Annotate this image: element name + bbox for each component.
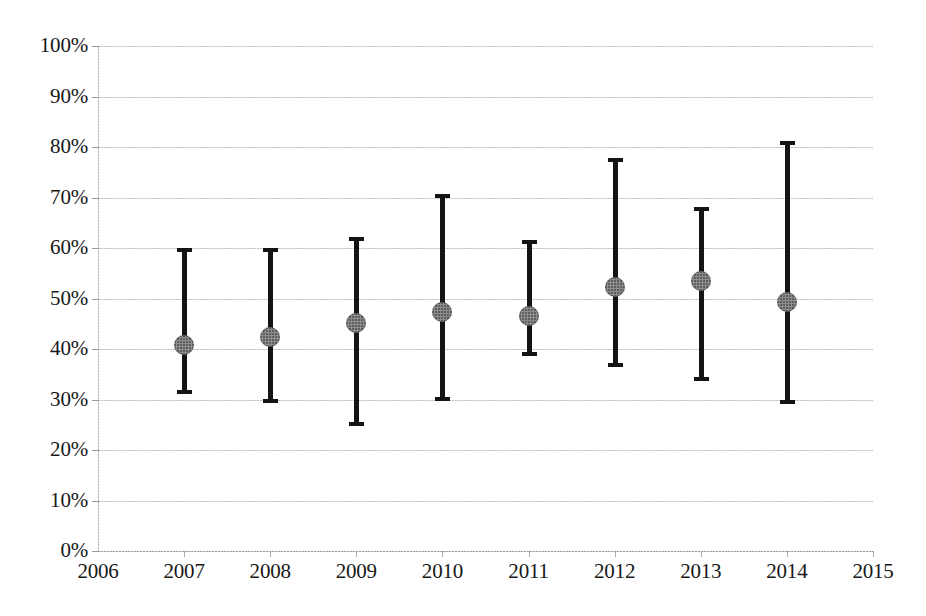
error-bar-cap-upper (780, 141, 795, 145)
error-bar-cap-lower (608, 363, 623, 367)
error-bar-stem (268, 248, 273, 403)
error-bar-cap-lower (435, 397, 450, 401)
y-axis-tick-label: 100% (8, 35, 88, 56)
plot-area (98, 46, 873, 551)
data-marker (777, 292, 797, 312)
error-bar-cap-upper (608, 158, 623, 162)
error-bar-cap-lower (780, 400, 795, 404)
x-axis-tick-mark (184, 551, 185, 557)
x-axis-tick-mark (442, 551, 443, 557)
data-marker (260, 327, 280, 347)
x-axis-tick-label: 2015 (813, 560, 926, 582)
x-axis-tick-mark (701, 551, 702, 557)
error-bar-cap-upper (263, 248, 278, 252)
y-axis-tick-label: 70% (8, 187, 88, 208)
y-axis-tick-label: 80% (8, 136, 88, 157)
error-bar-cap-lower (263, 399, 278, 403)
x-axis-tick-mark (356, 551, 357, 557)
error-bar-cap-upper (435, 194, 450, 198)
gridline-0 (98, 551, 873, 552)
y-axis-tick-label: 90% (8, 86, 88, 107)
y-axis-tick-label: 60% (8, 237, 88, 258)
error-bar-cap-lower (177, 390, 192, 394)
data-marker (519, 306, 539, 326)
y-axis-tick-label: 10% (8, 490, 88, 511)
x-axis-tick-mark (787, 551, 788, 557)
y-axis-tick-label: 20% (8, 439, 88, 460)
error-bar-cap-lower (349, 422, 364, 426)
error-bar-cap-upper (694, 207, 709, 211)
y-axis-tick-label: 40% (8, 338, 88, 359)
error-bar-stem (440, 194, 445, 401)
error-bar-cap-upper (522, 240, 537, 244)
y-axis-tick-label: 0% (8, 540, 88, 561)
data-marker (346, 313, 366, 333)
data-marker (691, 271, 711, 291)
error-bar-stem (785, 141, 790, 404)
error-bar-stem (613, 158, 618, 367)
x-axis-tick-mark (270, 551, 271, 557)
chart-figure: 100%90%80%70%60%50%40%30%20%10%0% 200620… (0, 0, 926, 616)
error-bar-stem (182, 248, 187, 394)
data-marker (174, 335, 194, 355)
data-marker (432, 302, 452, 322)
error-bar-stem (699, 207, 704, 381)
y-axis-tick-label: 50% (8, 288, 88, 309)
x-axis-tick-mark (615, 551, 616, 557)
y-axis-tick-label: 30% (8, 389, 88, 410)
y-axis-tick-mark (92, 551, 99, 552)
error-bar-cap-upper (177, 248, 192, 252)
error-bar-cap-upper (349, 237, 364, 241)
error-bar-cap-lower (694, 377, 709, 381)
data-marker (605, 277, 625, 297)
x-axis-tick-mark (873, 551, 874, 557)
error-bar-stem (527, 240, 532, 356)
error-bar-cap-lower (522, 352, 537, 356)
x-axis-tick-mark (529, 551, 530, 557)
